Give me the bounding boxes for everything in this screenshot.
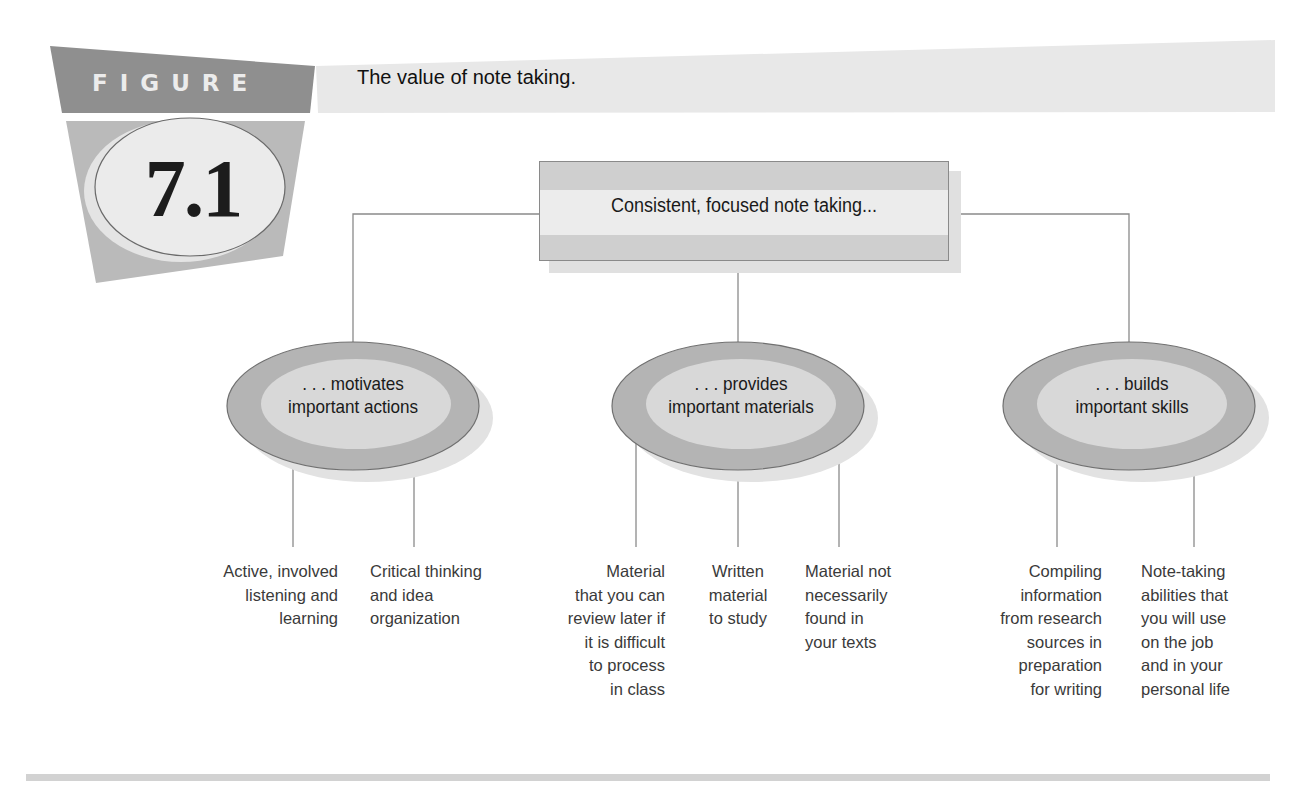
branch-label-line: important materials <box>642 395 840 418</box>
leaf-material-not-in-texts: Material not necessarily found in your t… <box>805 560 891 654</box>
branch-motivates-label: . . . motivates important actions <box>263 372 443 418</box>
branch-label-line: . . . motivates <box>263 372 443 395</box>
leaf-written-material: Written material to study <box>699 560 777 631</box>
figure-label: FIGURE <box>92 70 292 96</box>
figure-number: 7.1 <box>113 148 273 230</box>
leaf-active-listening: Active, involved listening and learning <box>223 560 338 631</box>
connector-right <box>951 214 1129 342</box>
branch-label-line: important skills <box>1042 395 1222 418</box>
bottom-divider <box>26 774 1270 781</box>
root-box: Consistent, focused note taking... <box>539 161 949 261</box>
branch-label-line: important actions <box>263 395 443 418</box>
branch-label-line: . . . provides <box>642 372 840 395</box>
figure-title: The value of note taking. <box>357 66 576 89</box>
connector-left <box>353 214 539 342</box>
root-label: Consistent, focused note taking... <box>560 194 927 217</box>
leaf-note-taking-abilities: Note-taking abilities that you will use … <box>1141 560 1230 701</box>
leaf-compiling-information: Compiling information from research sour… <box>1000 560 1102 701</box>
branch-label-line: . . . builds <box>1042 372 1222 395</box>
leaf-review-material: Material that you can review later if it… <box>568 560 665 701</box>
leaf-critical-thinking: Critical thinking and idea organization <box>370 560 482 631</box>
branch-provides-label: . . . provides important materials <box>642 372 840 418</box>
branch-builds-label: . . . builds important skills <box>1042 372 1222 418</box>
